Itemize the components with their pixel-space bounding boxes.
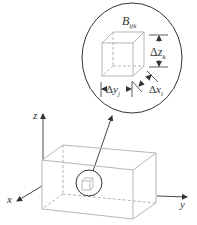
grid-block-diagram: Bijk Δzk Δyj Δxi (0, 0, 197, 225)
dy-label: Δyj (106, 83, 120, 98)
block-label: Bijk (122, 14, 137, 30)
z-axis-label: z (32, 109, 38, 121)
dz-label: Δzk (150, 45, 166, 61)
y-axis-label: y (179, 198, 185, 210)
magnify-pointer (93, 116, 112, 171)
focus-circle (76, 170, 102, 196)
tiny-cube (82, 178, 93, 190)
magnified-cube (102, 32, 144, 76)
dx-label: Δxi (149, 83, 163, 98)
x-axis-label: x (6, 193, 12, 205)
domain-box (42, 145, 156, 219)
